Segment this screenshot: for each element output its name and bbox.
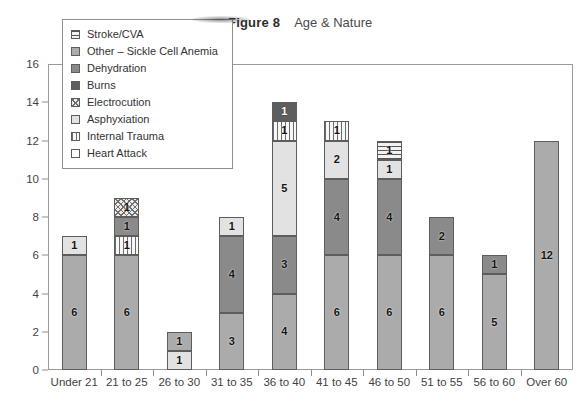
bar-under-21[interactable]: 61 bbox=[62, 236, 87, 370]
bar-segment-other[interactable]: 6 bbox=[324, 255, 349, 370]
y-axis-tick-mark bbox=[42, 217, 48, 218]
x-axis-tick-mark bbox=[258, 370, 259, 376]
legend-item-dehydration[interactable]: Dehydration bbox=[71, 60, 218, 77]
legend-swatch-internal-icon bbox=[71, 132, 80, 141]
bar-segment-value: 6 bbox=[71, 307, 77, 318]
bar-segment-value: 1 bbox=[229, 221, 235, 232]
bar-segment-value: 6 bbox=[439, 307, 445, 318]
bar-segment-internal[interactable]: 1 bbox=[114, 236, 139, 255]
legend-item-electrocution[interactable]: Electrocution bbox=[71, 94, 218, 111]
bar-segment-value: 4 bbox=[281, 326, 287, 337]
legend-swatch-other-icon bbox=[71, 47, 80, 56]
legend-item-heart[interactable]: Heart Attack bbox=[71, 145, 218, 162]
y-axis-tick-mark bbox=[42, 178, 48, 179]
bar-36-to-40[interactable]: 43511 bbox=[272, 102, 297, 370]
bar-segment-value: 1 bbox=[386, 164, 392, 175]
bar-segment-dehydration[interactable]: 1 bbox=[114, 217, 139, 236]
legend-item-internal[interactable]: Internal Trauma bbox=[71, 128, 218, 145]
legend-item-burns[interactable]: Burns bbox=[71, 77, 218, 94]
bar-segment-asphyxiation[interactable]: 5 bbox=[272, 141, 297, 237]
bar-segment-other[interactable]: 6 bbox=[429, 255, 454, 370]
bar-segment-burns[interactable]: 1 bbox=[272, 102, 297, 121]
bar-46-to-50[interactable]: 6411 bbox=[377, 141, 402, 371]
bar-segment-dehydration[interactable]: 4 bbox=[377, 179, 402, 256]
y-axis-tick-mark bbox=[42, 331, 48, 332]
x-axis-tick-mark bbox=[468, 370, 469, 376]
bar-segment-value: 2 bbox=[439, 231, 445, 242]
bar-segment-value: 2 bbox=[334, 154, 340, 165]
legend-item-asphyxiation[interactable]: Asphyxiation bbox=[71, 111, 218, 128]
bar-segment-asphyxiation[interactable]: 1 bbox=[167, 351, 192, 370]
bar-51-to-55[interactable]: 62 bbox=[429, 217, 454, 370]
bar-segment-value: 1 bbox=[491, 259, 497, 270]
bar-over-60[interactable]: 12 bbox=[534, 141, 559, 371]
x-axis-label-21-to-25: 21 to 25 bbox=[106, 376, 148, 388]
bar-segment-value: 1 bbox=[386, 145, 392, 156]
x-axis-label-under-21: Under 21 bbox=[51, 376, 98, 388]
bar-segment-value: 6 bbox=[334, 307, 340, 318]
bar-41-to-45[interactable]: 6421 bbox=[324, 121, 349, 370]
x-axis-label-41-to-45: 41 to 45 bbox=[316, 376, 358, 388]
x-axis-tick-mark bbox=[206, 370, 207, 376]
bar-segment-value: 3 bbox=[229, 336, 235, 347]
x-axis-tick-mark bbox=[363, 370, 364, 376]
bar-segment-dehydration[interactable]: 1 bbox=[482, 255, 507, 274]
legend-item-stroke[interactable]: Stroke/CVA bbox=[71, 26, 218, 43]
bar-segment-stroke[interactable]: 1 bbox=[377, 141, 402, 160]
legend-item-label: Heart Attack bbox=[87, 148, 147, 159]
bar-segment-value: 4 bbox=[386, 212, 392, 223]
chart-title: Figure 8Age & Nature bbox=[228, 15, 372, 30]
bar-segment-internal[interactable]: 1 bbox=[324, 121, 349, 140]
figure-number: Figure 8 bbox=[228, 15, 280, 30]
bar-segment-other[interactable]: 6 bbox=[377, 255, 402, 370]
x-axis-tick-mark bbox=[101, 370, 102, 376]
x-axis-tick-mark bbox=[521, 370, 522, 376]
bar-segment-asphyxiation[interactable]: 2 bbox=[324, 141, 349, 179]
bar-segment-dehydration[interactable]: 4 bbox=[324, 179, 349, 256]
bar-segment-value: 5 bbox=[491, 317, 497, 328]
legend-item-label: Burns bbox=[87, 80, 116, 91]
bar-segment-other[interactable]: 3 bbox=[219, 313, 244, 370]
y-axis-tick-mark bbox=[42, 293, 48, 294]
legend-item-other[interactable]: Other – Sickle Cell Anemia bbox=[71, 43, 218, 60]
bar-segment-other[interactable]: 6 bbox=[62, 255, 87, 370]
x-axis-label-36-to-40: 36 to 40 bbox=[263, 376, 305, 388]
bar-segment-value: 1 bbox=[281, 106, 287, 117]
bar-56-to-60[interactable]: 51 bbox=[482, 255, 507, 370]
figure-subtitle: Age & Nature bbox=[294, 15, 372, 30]
y-axis-tick-mark bbox=[42, 102, 48, 103]
bar-segment-asphyxiation[interactable]: 1 bbox=[62, 236, 87, 255]
bar-segment-asphyxiation[interactable]: 1 bbox=[377, 160, 402, 179]
bar-31-to-35[interactable]: 341 bbox=[219, 217, 244, 370]
bar-segment-other[interactable]: 4 bbox=[272, 294, 297, 371]
legend-item-label: Stroke/CVA bbox=[87, 29, 144, 40]
x-axis-label-46-to-50: 46 to 50 bbox=[368, 376, 410, 388]
bar-segment-internal[interactable]: 1 bbox=[272, 121, 297, 140]
bar-segment-dehydration[interactable]: 2 bbox=[429, 217, 454, 255]
bar-segment-electrocution[interactable]: 1 bbox=[114, 198, 139, 217]
y-axis-tick-label: 16 bbox=[26, 58, 48, 70]
legend-swatch-burns-icon bbox=[71, 81, 80, 90]
legend-swatch-dehydration-icon bbox=[71, 64, 80, 73]
legend-item-label: Dehydration bbox=[87, 63, 146, 74]
bar-segment-dehydration[interactable]: 3 bbox=[272, 236, 297, 293]
bar-segment-value: 1 bbox=[176, 336, 182, 347]
y-axis-tick-mark bbox=[42, 255, 48, 256]
x-axis-tick-mark bbox=[416, 370, 417, 376]
bar-segment-value: 3 bbox=[281, 259, 287, 270]
bar-segment-dehydration[interactable]: 4 bbox=[219, 236, 244, 313]
legend-item-label: Asphyxiation bbox=[87, 114, 149, 125]
y-axis-tick-mark bbox=[42, 140, 48, 141]
bar-26-to-30[interactable]: 11 bbox=[167, 332, 192, 370]
bar-segment-asphyxiation[interactable]: 1 bbox=[219, 217, 244, 236]
bar-segment-value: 5 bbox=[281, 183, 287, 194]
bar-segment-other[interactable]: 6 bbox=[114, 255, 139, 370]
bar-segment-value: 12 bbox=[541, 250, 553, 261]
bar-segment-value: 4 bbox=[334, 212, 340, 223]
x-axis-label-51-to-55: 51 to 55 bbox=[421, 376, 463, 388]
bar-21-to-25[interactable]: 6111 bbox=[114, 198, 139, 370]
bar-segment-other[interactable]: 12 bbox=[534, 141, 559, 371]
bar-segment-other[interactable]: 1 bbox=[167, 332, 192, 351]
bar-segment-other[interactable]: 5 bbox=[482, 274, 507, 370]
chart-legend: Stroke/CVAOther – Sickle Cell AnemiaDehy… bbox=[62, 19, 233, 169]
